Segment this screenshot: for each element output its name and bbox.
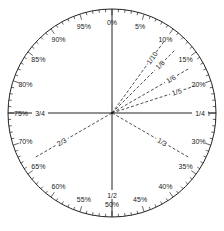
tick-mark bbox=[170, 29, 174, 34]
tick-mark bbox=[51, 192, 55, 197]
fraction-labels: 1/101/81/61/51/32/31/41/23/4 bbox=[32, 50, 208, 199]
tick-mark bbox=[142, 206, 144, 212]
percent-label: 75% bbox=[14, 110, 28, 117]
fraction-line bbox=[112, 113, 190, 158]
percent-label: 30% bbox=[192, 138, 206, 145]
percent-label: 65% bbox=[31, 163, 45, 170]
percent-label: 10% bbox=[158, 36, 172, 43]
percent-label: 85% bbox=[31, 56, 45, 63]
percent-label: 60% bbox=[52, 183, 66, 190]
percent-label: 20% bbox=[192, 81, 206, 88]
percent-label: 45% bbox=[133, 196, 147, 203]
tick-mark bbox=[28, 52, 33, 56]
percent-label: 90% bbox=[52, 36, 66, 43]
fraction-line bbox=[34, 113, 112, 158]
percent-label: 55% bbox=[77, 196, 91, 203]
percent-label: 80% bbox=[18, 81, 32, 88]
tick-mark bbox=[80, 206, 82, 212]
tick-mark bbox=[191, 171, 196, 175]
fraction-line bbox=[112, 40, 165, 113]
percent-label: 50% bbox=[105, 201, 119, 208]
tick-mark bbox=[28, 171, 33, 175]
tick-mark bbox=[205, 143, 211, 145]
tick-mark bbox=[205, 81, 211, 83]
tick-mark bbox=[51, 29, 55, 34]
diagram-canvas: 0%5%10%15%20%25%30%35%40%45%50%55%60%65%… bbox=[0, 0, 224, 231]
tick-mark bbox=[80, 14, 82, 20]
percent-label: 35% bbox=[179, 163, 193, 170]
center-point bbox=[111, 112, 113, 114]
percent-label: 15% bbox=[179, 56, 193, 63]
tick-mark bbox=[142, 14, 144, 20]
axis-fraction-label: 3/4 bbox=[35, 110, 45, 117]
percent-label: 0% bbox=[107, 19, 117, 26]
axis-fraction-label: 1/2 bbox=[107, 192, 117, 199]
percent-label: 5% bbox=[135, 23, 145, 30]
percentage-circle-diagram: 0%5%10%15%20%25%30%35%40%45%50%55%60%65%… bbox=[0, 0, 224, 231]
axis-fraction-label: 1/4 bbox=[195, 110, 205, 117]
percent-label: 95% bbox=[77, 23, 91, 30]
tick-mark bbox=[191, 52, 196, 56]
fraction-line bbox=[112, 85, 198, 113]
percent-label: 70% bbox=[18, 138, 32, 145]
tick-mark bbox=[170, 192, 174, 197]
percent-label: 40% bbox=[158, 183, 172, 190]
